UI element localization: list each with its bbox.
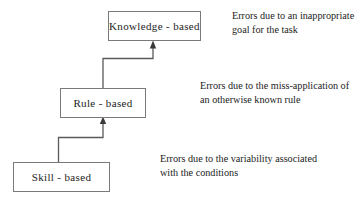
arrow-rule-to-knowledge — [103, 41, 156, 89]
node-skill-based-label: Skill - based — [32, 171, 92, 183]
annotation-knowledge-based: Errors due to an inappropriate goal for … — [232, 9, 357, 36]
node-knowledge-based[interactable]: Knowledge - based — [108, 11, 201, 41]
diagram-canvas: Knowledge - based Rule - based Skill - b… — [0, 0, 359, 199]
arrow-skill-to-rule — [59, 117, 107, 163]
annotation-rule-based: Errors due to the miss-application of an… — [200, 79, 350, 106]
annotation-skill-based: Errors due to the variability associated… — [160, 152, 320, 179]
node-skill-based[interactable]: Skill - based — [13, 162, 110, 192]
node-rule-based-label: Rule - based — [73, 97, 132, 109]
node-rule-based[interactable]: Rule - based — [60, 88, 146, 118]
node-knowledge-based-label: Knowledge - based — [109, 20, 200, 32]
